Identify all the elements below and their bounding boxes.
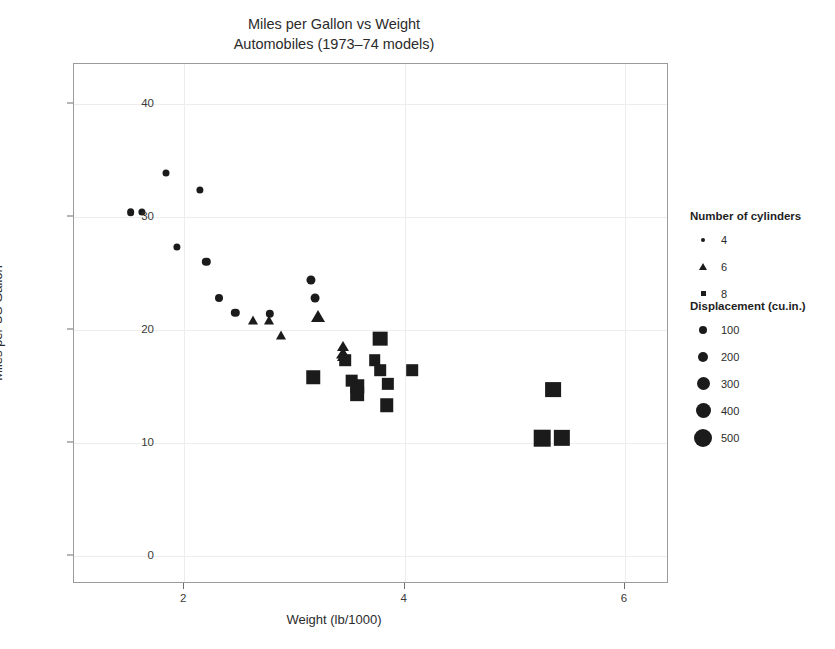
x-axis-tick-mark [183, 583, 184, 589]
data-points-layer [74, 64, 667, 582]
circle-icon [690, 425, 716, 451]
x-axis-tick-mark [624, 583, 625, 589]
y-axis-tick-mark [67, 554, 73, 555]
legend-displacement-row[interactable]: 500 [690, 424, 806, 451]
circle-icon [690, 371, 716, 397]
legend-cylinders-label: 6 [721, 261, 727, 273]
circle-icon [690, 398, 716, 424]
x-axis-tick-label: 2 [180, 592, 186, 604]
legend-displacement-row[interactable]: 300 [690, 370, 806, 397]
data-point-square [373, 331, 388, 346]
data-point-circle [196, 186, 203, 193]
x-axis-tick-label: 4 [400, 592, 406, 604]
data-point-square [545, 382, 561, 398]
chart-root: Miles per Gallon vs Weight Automobiles (… [0, 0, 835, 649]
data-point-circle [306, 275, 315, 284]
chart-subtitle: Automobiles (1973–74 models) [0, 34, 668, 54]
data-point-circle [202, 258, 210, 266]
x-axis-tick-label: 6 [621, 592, 627, 604]
triangle-glyph [690, 254, 716, 280]
data-point-square [306, 370, 320, 384]
y-axis-tick-label: 0 [148, 549, 154, 561]
y-axis-tick-mark [67, 215, 73, 216]
circle-icon [690, 344, 716, 370]
legend-cylinders-row[interactable]: 6 [690, 253, 801, 280]
square-glyph-shape [701, 291, 706, 296]
legend-cylinders-title: Number of cylinders [690, 210, 801, 222]
x-axis-label: Weight (lb/1000) [0, 612, 668, 627]
chart-title: Miles per Gallon vs Weight [0, 14, 668, 34]
legend-displacement-row[interactable]: 400 [690, 397, 806, 424]
y-axis-tick-label: 20 [141, 323, 154, 335]
data-point-square [553, 430, 569, 446]
data-point-square [381, 378, 393, 390]
legend-cylinders-row[interactable]: 4 [690, 226, 801, 253]
data-point-circle [231, 308, 239, 316]
legend-displacement-label: 400 [721, 405, 739, 417]
chart-title-block: Miles per Gallon vs Weight Automobiles (… [0, 14, 668, 54]
legend-displacement-row[interactable]: 200 [690, 343, 806, 370]
legend-displacement-title: Displacement (cu.in.) [690, 300, 806, 312]
legend-cylinders: Number of cylinders 468 [690, 210, 801, 307]
data-point-triangle [311, 310, 325, 322]
circle-icon-shape [697, 377, 710, 390]
legend-cylinders-label: 8 [721, 288, 727, 300]
circle-glyph-shape [701, 238, 705, 242]
circle-icon-shape [696, 403, 711, 418]
legend-displacement-label: 200 [721, 351, 739, 363]
data-point-square [407, 365, 419, 377]
y-axis-tick-label: 10 [141, 436, 154, 448]
circle-icon-shape [694, 429, 712, 447]
data-point-square [380, 399, 394, 413]
legend-cylinders-label: 4 [721, 234, 727, 246]
data-point-circle [173, 244, 180, 251]
legend-displacement-label: 100 [721, 324, 739, 336]
legend-displacement-label: 300 [721, 378, 739, 390]
y-axis-tick-label: 30 [141, 210, 154, 222]
data-point-circle [127, 208, 135, 216]
legend-displacement-items: 100200300400500 [690, 316, 806, 451]
y-axis-tick-mark [67, 102, 73, 103]
data-point-circle [215, 294, 223, 302]
y-axis-tick-mark [67, 441, 73, 442]
legend-displacement-row[interactable]: 100 [690, 316, 806, 343]
triangle-glyph-shape [699, 263, 707, 270]
circle-icon-shape [698, 352, 708, 362]
y-axis-tick-label: 40 [141, 97, 154, 109]
plot-panel [73, 63, 668, 583]
legend-displacement-label: 500 [721, 432, 739, 444]
data-point-square [534, 430, 551, 447]
data-point-square [375, 365, 387, 377]
data-point-circle [311, 294, 320, 303]
circle-glyph [690, 227, 716, 253]
circle-icon-shape [699, 326, 707, 334]
data-point-triangle [248, 316, 258, 325]
data-point-square [350, 387, 364, 401]
data-point-square [339, 354, 351, 366]
data-point-triangle [276, 330, 286, 339]
y-axis-tick-mark [67, 328, 73, 329]
legend-displacement: Displacement (cu.in.) 100200300400500 [690, 300, 806, 451]
legend-cylinders-items: 468 [690, 226, 801, 307]
data-point-circle [163, 169, 170, 176]
circle-icon [690, 317, 716, 343]
x-axis-tick-mark [404, 583, 405, 589]
y-axis-label: Miles per US Gallon [0, 265, 5, 381]
